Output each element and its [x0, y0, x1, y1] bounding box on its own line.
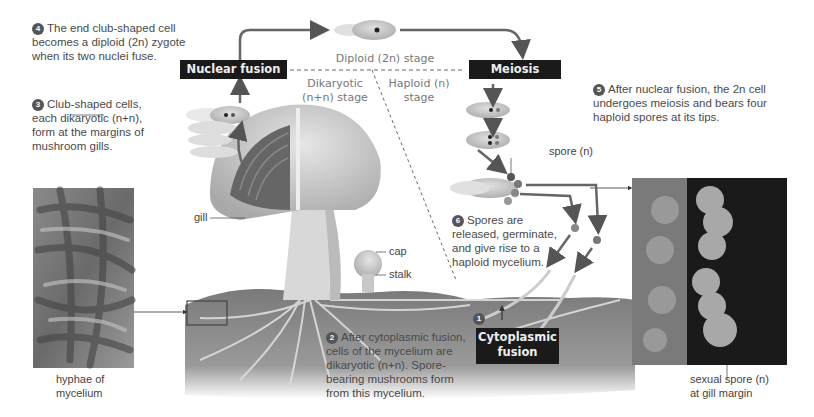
gill-label: gill — [194, 211, 207, 223]
spore-label: spore (n) — [549, 145, 593, 157]
step-2-caption: 2After cytoplasmic fusion, cells of the … — [326, 330, 466, 400]
step-5-badge: 5 — [593, 84, 605, 96]
cap-label: cap — [389, 245, 407, 257]
hyphae-photo — [33, 188, 134, 368]
haploid-stage-label: Haploid (n) stage — [384, 77, 454, 105]
meiosis-box: Meiosis — [469, 60, 561, 79]
step-3-caption: 3Club-shaped cells, each dikaryotic (n+n… — [32, 97, 182, 153]
step-6-badge: 6 — [452, 215, 464, 227]
step-6-caption: 6Spores are released, germinate, and giv… — [452, 213, 572, 269]
step-5-caption: 5After nuclear fusion, the 2n cell under… — [593, 82, 808, 124]
step-2-badge: 2 — [326, 332, 338, 344]
diploid-stage-label: Diploid (2n) stage — [320, 52, 450, 66]
stalk-label: stalk — [389, 268, 412, 280]
sexual-spore-caption: sexual spore (n) at gill margin — [690, 372, 769, 400]
dikaryotic-stage-label: Dikaryotic (n+n) stage — [300, 77, 370, 105]
step-4-badge: 4 — [32, 23, 44, 35]
step-1-badge: 1 — [473, 313, 485, 325]
step-4-caption: 4The end club-shaped cell becomes a dipl… — [32, 21, 207, 63]
diploid-cell — [334, 20, 396, 40]
spore-photo — [632, 178, 787, 365]
hyphae-caption: hyphae of mycelium — [56, 372, 104, 400]
cytoplasmic-fusion-box: Cytoplasmic fusion — [476, 328, 559, 364]
nuclear-fusion-box: Nuclear fusion — [180, 60, 287, 79]
step-3-badge: 3 — [32, 99, 44, 111]
